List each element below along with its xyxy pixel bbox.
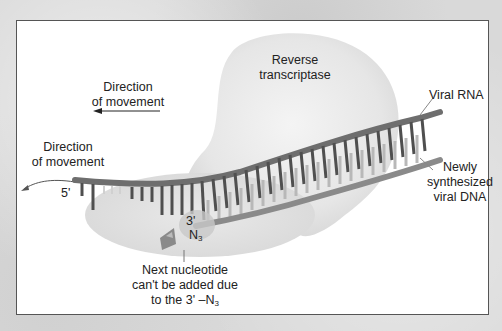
new-dna-line2: synthesized bbox=[420, 175, 500, 190]
new-dna-line3: viral DNA bbox=[420, 190, 500, 205]
viral-rna-label: Viral RNA bbox=[429, 88, 484, 103]
enzyme-label-line2: transcriptase bbox=[240, 68, 350, 83]
enzyme-label: Reverse transcriptase bbox=[240, 53, 350, 83]
direction-upper-line1: Direction bbox=[88, 80, 168, 95]
note-line3: to the 3' –N3 bbox=[125, 293, 245, 311]
direction-left-line2: of movement bbox=[28, 155, 108, 170]
n3-sub: 3 bbox=[198, 234, 202, 243]
note-line3-sub: 3 bbox=[215, 299, 219, 308]
new-dna-label: Newly synthesized viral DNA bbox=[420, 160, 500, 205]
nucleotide-note: Next nucleotide can't be added due to th… bbox=[125, 263, 245, 311]
direction-upper-line2: of movement bbox=[88, 95, 168, 110]
enzyme-label-line1: Reverse bbox=[240, 53, 350, 68]
note-line1: Next nucleotide bbox=[125, 263, 245, 278]
note-line2: can't be added due bbox=[125, 278, 245, 293]
note-line3-prefix: to the 3' –N bbox=[151, 293, 215, 307]
n3-base: N bbox=[189, 228, 198, 242]
direction-upper-label: Direction of movement bbox=[88, 80, 168, 110]
direction-left-line1: Direction bbox=[28, 140, 108, 155]
direction-left-label: Direction of movement bbox=[28, 140, 108, 170]
five-prime-label: 5' bbox=[61, 186, 70, 201]
n3-label: N3 bbox=[189, 228, 202, 246]
new-dna-line1: Newly bbox=[420, 160, 500, 175]
three-prime-label: 3' bbox=[186, 214, 195, 229]
